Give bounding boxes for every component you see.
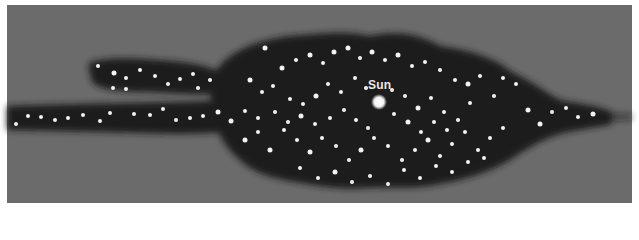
star (434, 164, 438, 168)
star (308, 150, 313, 155)
star (132, 112, 136, 116)
star (413, 148, 417, 152)
star (538, 122, 543, 127)
star (273, 110, 277, 114)
star (138, 68, 142, 72)
star (402, 168, 406, 172)
star (321, 61, 325, 65)
star (372, 136, 376, 140)
star (294, 58, 298, 62)
star (26, 114, 30, 118)
star (201, 114, 205, 118)
star (347, 158, 351, 162)
star (298, 166, 302, 170)
star (576, 115, 580, 119)
star (418, 176, 422, 180)
star (368, 174, 372, 178)
star (98, 119, 102, 123)
star (191, 72, 195, 76)
star (482, 156, 486, 160)
star (438, 68, 442, 72)
star (526, 108, 531, 113)
star (124, 76, 128, 80)
star (406, 120, 411, 125)
star (313, 122, 317, 126)
star (271, 84, 275, 88)
star (353, 76, 357, 80)
star (403, 94, 407, 98)
star (53, 118, 57, 122)
galaxy-silhouette (7, 33, 632, 189)
star (243, 138, 248, 143)
star (438, 154, 442, 158)
star (243, 109, 247, 113)
star (153, 74, 157, 78)
star (370, 50, 375, 55)
star (334, 144, 338, 148)
star (314, 94, 319, 99)
star (208, 78, 212, 82)
star (112, 71, 117, 76)
star (492, 94, 496, 98)
sun-label: Sun (368, 78, 391, 92)
star (456, 118, 460, 122)
star (354, 118, 358, 122)
star (476, 148, 480, 152)
star (286, 120, 290, 124)
star (299, 114, 304, 119)
star (326, 82, 330, 86)
star (333, 170, 338, 175)
star (591, 112, 596, 117)
star (66, 116, 70, 120)
star (450, 170, 454, 174)
star (320, 136, 324, 140)
star (166, 82, 170, 86)
star (301, 102, 305, 106)
star (124, 87, 128, 91)
star (332, 50, 337, 55)
star (488, 136, 492, 140)
star (419, 130, 423, 134)
star (328, 116, 332, 120)
star (366, 126, 370, 130)
star (280, 66, 285, 71)
star (445, 128, 449, 132)
star (429, 96, 433, 100)
star (466, 160, 470, 164)
star (501, 126, 505, 130)
star (263, 46, 268, 51)
star (161, 107, 165, 111)
star (410, 64, 414, 68)
star (256, 130, 260, 134)
star (178, 77, 182, 81)
star (282, 128, 286, 132)
star (256, 116, 260, 120)
star (463, 130, 467, 134)
star (39, 115, 43, 119)
star (392, 112, 396, 116)
star (248, 78, 253, 83)
star (423, 60, 427, 64)
star (14, 122, 18, 126)
star (386, 144, 390, 148)
star (188, 116, 192, 120)
star (416, 106, 421, 111)
star (386, 182, 390, 186)
star (342, 108, 346, 112)
star (295, 138, 299, 142)
star (501, 76, 505, 80)
sun-marker (371, 94, 387, 110)
star (216, 110, 221, 115)
star (196, 86, 200, 90)
star (359, 148, 364, 153)
star (339, 90, 343, 94)
star (466, 82, 471, 87)
star (453, 78, 457, 82)
star (308, 53, 313, 58)
star (260, 90, 264, 94)
star (550, 110, 554, 114)
star (442, 110, 446, 114)
star (383, 58, 387, 62)
star (148, 113, 152, 117)
star (514, 82, 518, 86)
